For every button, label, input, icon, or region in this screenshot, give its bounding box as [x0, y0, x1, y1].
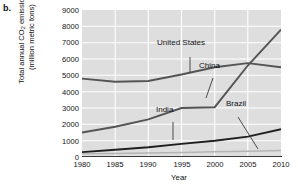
y-tick-label: 6000: [45, 55, 79, 64]
y-tick-label: 8000: [45, 22, 79, 31]
panel-label: b.: [3, 3, 11, 13]
plot-area: [82, 10, 281, 157]
annotation-united-states: United States: [157, 38, 205, 47]
y-tick-label: 5000: [45, 71, 79, 80]
x-tick-label: 1995: [165, 160, 199, 169]
x-tick-label: 1980: [65, 160, 99, 169]
x-axis-title-text: Year: [171, 173, 187, 182]
grid-vertical: [115, 10, 248, 157]
y-axis-title-line1: Total annual CO2 emissions: [17, 0, 26, 84]
y-tick-label: 4000: [45, 88, 79, 97]
x-tick-label: 1990: [131, 160, 165, 169]
x-axis-title: Year: [0, 173, 298, 182]
y-tick-label: 1000: [45, 137, 79, 146]
x-tick-label: 1985: [98, 160, 132, 169]
annotation-china: China: [199, 61, 220, 70]
x-tick-label: 2010: [264, 160, 298, 169]
x-axis-line: [82, 156, 282, 157]
annotation-india: India: [156, 105, 173, 114]
y-tick-label: 2000: [45, 120, 79, 129]
x-tick-label: 2005: [231, 160, 265, 169]
x-tick-label: 2000: [198, 160, 232, 169]
y-tick-label: 9000: [45, 6, 79, 15]
y-tick-label: 3000: [45, 104, 79, 113]
y-tick-label: 7000: [45, 38, 79, 47]
annotation-brazil: Brazil: [226, 99, 246, 108]
y-axis-title: Total annual CO2 emissions (million metr…: [18, 0, 36, 112]
chart-figure: b. Total annual CO2 emissions (million m…: [0, 0, 298, 190]
leader-line-china: [206, 78, 213, 98]
y-axis-title-line2: (million metric tons): [28, 0, 37, 112]
